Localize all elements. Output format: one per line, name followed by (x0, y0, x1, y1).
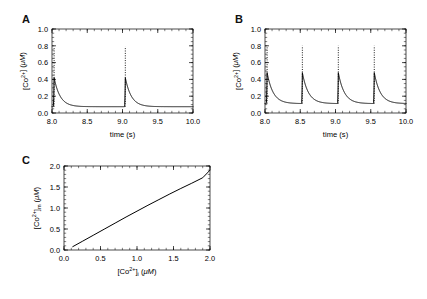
y-tick-label: 2.0 (50, 162, 60, 171)
panel-b-plot: 8.08.59.09.510.00.00.20.40.60.81.0time (… (213, 0, 427, 150)
plot-frame (265, 29, 406, 113)
x-tick-label: 8.0 (260, 117, 270, 126)
panel-a: A 8.08.59.09.510.00.00.20.40.60.81.0time… (0, 0, 214, 150)
y-tick-label: 1.5 (50, 183, 60, 192)
x-axis-title: time (s) (323, 130, 349, 139)
panel-a-plot: 8.08.59.09.510.00.00.20.40.60.81.0time (… (0, 0, 214, 150)
response-curve (73, 170, 210, 246)
x-tick-label: 0.5 (95, 254, 105, 263)
x-axis-title: [Co2+]i (μM) (118, 266, 157, 276)
x-tick-label: 8.5 (82, 117, 92, 126)
y-axis-title: [Co2+] (μM) (231, 52, 243, 90)
x-tick-label: 10.0 (399, 117, 413, 126)
y-tick-label: 0.6 (38, 58, 48, 67)
y-tick-label: 0.0 (50, 246, 60, 255)
y-tick-label: 0.5 (50, 225, 60, 234)
x-tick-label: 9.0 (330, 117, 340, 126)
plot-frame (52, 29, 193, 113)
x-tick-label: 2.0 (205, 254, 215, 263)
x-axis-title: time (s) (110, 130, 136, 139)
panel-c-letter: C (22, 154, 30, 166)
panel-c-plot: 0.00.51.01.52.00.00.51.01.52.0[Co2+]i (μ… (20, 148, 250, 299)
panel-b-letter: B (235, 13, 243, 25)
panel-a-letter: A (22, 13, 30, 25)
plot-frame (64, 166, 210, 250)
x-tick-label: 9.5 (153, 117, 163, 126)
y-axis-title: [Co2+]m (μM) (31, 186, 41, 229)
signal-curve (52, 78, 193, 107)
x-tick-label: 9.5 (366, 117, 376, 126)
y-tick-label: 0.4 (38, 75, 48, 84)
panel-c: C 0.00.51.01.52.00.00.51.01.52.0[Co2+]i … (20, 148, 250, 299)
y-tick-label: 0.2 (251, 92, 261, 101)
y-tick-label: 1.0 (50, 204, 60, 213)
signal-curve (265, 73, 406, 104)
x-tick-label: 8.5 (295, 117, 305, 126)
y-tick-label: 0.8 (38, 42, 48, 51)
x-tick-label: 10.0 (186, 117, 200, 126)
y-tick-label: 0.6 (251, 58, 261, 67)
x-tick-label: 1.0 (132, 254, 142, 263)
y-tick-label: 0.0 (251, 109, 261, 118)
y-axis-title: [Co2+] (μM) (18, 52, 30, 90)
x-tick-label: 1.5 (168, 254, 178, 263)
panel-b: B 8.08.59.09.510.00.00.20.40.60.81.0time… (213, 0, 427, 150)
y-tick-label: 0.0 (38, 109, 48, 118)
x-tick-label: 9.0 (117, 117, 127, 126)
y-tick-label: 0.2 (38, 92, 48, 101)
y-tick-label: 1.0 (38, 25, 48, 34)
y-tick-label: 0.8 (251, 42, 261, 51)
y-tick-label: 1.0 (251, 25, 261, 34)
x-tick-label: 8.0 (47, 117, 57, 126)
y-tick-label: 0.4 (251, 75, 261, 84)
x-tick-label: 0.0 (59, 254, 69, 263)
